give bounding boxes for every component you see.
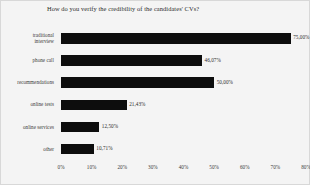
bar-value-label: 12,50% bbox=[102, 121, 118, 132]
bar-row: recommendations50,00% bbox=[61, 71, 306, 93]
x-tick-label: 50% bbox=[209, 164, 219, 170]
category-label-line: recommendations bbox=[0, 79, 54, 85]
category-label-online-services: online services bbox=[0, 124, 54, 130]
x-tick-label: 60% bbox=[240, 164, 250, 170]
x-axis: 0%10%20%30%40%50%60%70%80% bbox=[61, 162, 306, 176]
bar-recommendations[interactable] bbox=[61, 77, 214, 88]
bar-value-label: 75,00% bbox=[293, 32, 309, 43]
category-label-line: other bbox=[0, 146, 54, 152]
bar-other[interactable] bbox=[61, 144, 94, 155]
category-label-online-tests: online tests bbox=[0, 101, 54, 107]
category-label-line: online services bbox=[0, 124, 54, 130]
category-label-line: online tests bbox=[0, 101, 54, 107]
bar-value-label: 10,71% bbox=[96, 143, 112, 154]
chart-title: How do you verify the credibility of the… bbox=[47, 4, 287, 13]
chart-figure: How do you verify the credibility of the… bbox=[0, 0, 310, 185]
bar-row: online tests21,43% bbox=[61, 94, 306, 116]
x-tick-label: 30% bbox=[148, 164, 158, 170]
bar-row: traditionalinterview75,00% bbox=[61, 27, 306, 49]
x-tick-label: 20% bbox=[117, 164, 127, 170]
category-label-line: phone call bbox=[0, 57, 54, 63]
x-tick-label: 10% bbox=[87, 164, 97, 170]
category-label-other: other bbox=[0, 146, 54, 152]
x-tick-label: 0% bbox=[58, 164, 65, 170]
bar-phone-call[interactable] bbox=[61, 55, 202, 66]
bar-row: other10,71% bbox=[61, 138, 306, 160]
category-label-recommendations: recommendations bbox=[0, 79, 54, 85]
category-label-phone-call: phone call bbox=[0, 57, 54, 63]
bar-online-tests[interactable] bbox=[61, 100, 127, 111]
bar-row: phone call46,07% bbox=[61, 49, 306, 71]
bar-value-label: 50,00% bbox=[217, 77, 233, 88]
bar-traditional-interview[interactable] bbox=[61, 33, 291, 44]
bar-value-label: 21,43% bbox=[129, 99, 145, 110]
category-label-traditional-interview: traditionalinterview bbox=[0, 32, 54, 44]
bar-value-label: 46,07% bbox=[205, 55, 221, 66]
plot-area: traditionalinterview75,00%phone call46,0… bbox=[61, 27, 306, 160]
x-tick-label: 40% bbox=[179, 164, 189, 170]
bar-row: online services12,50% bbox=[61, 116, 306, 138]
category-label-line: interview bbox=[0, 38, 54, 44]
x-tick-label: 70% bbox=[271, 164, 281, 170]
bar-online-services[interactable] bbox=[61, 122, 99, 133]
x-tick-label: 80% bbox=[301, 164, 310, 170]
